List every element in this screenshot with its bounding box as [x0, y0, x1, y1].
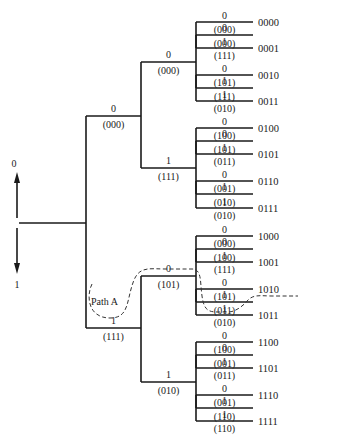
code-tree-diagram: 0 1 0(000)1(111)0(000)1(111)0(101)1(010)… — [0, 0, 348, 438]
leaf-output-label: (010) — [214, 210, 236, 222]
branch-output-label: (000) — [158, 65, 180, 77]
leaf-input-label: 1 — [222, 409, 227, 420]
leaf-codeword: 1001 — [258, 257, 279, 268]
leaf-codeword: 1010 — [258, 284, 279, 295]
leaf-input-label: 0 — [222, 63, 227, 74]
branch-output-label: (111) — [158, 171, 179, 183]
leaf-output-label: (011) — [214, 156, 235, 168]
leaf-codeword: 1111 — [258, 416, 278, 427]
leaf-codeword: 1101 — [258, 363, 279, 374]
leaf-codeword: 0110 — [258, 176, 279, 187]
branch-input-label: 0 — [111, 103, 116, 114]
leaf-output-label: (000) — [214, 238, 236, 250]
branch-input-label: 1 — [166, 369, 171, 380]
leaf-input-label: 1 — [222, 142, 227, 153]
path-a-label: Path A — [91, 296, 119, 307]
up-direction-label: 0 — [12, 158, 17, 169]
leaf-codeword: 1100 — [258, 337, 279, 348]
leaf-input-label: 1 — [222, 250, 227, 261]
leaf-output-label: (101) — [214, 77, 236, 89]
leaf-output-label: (001) — [214, 183, 236, 195]
leaf-codeword: 1000 — [258, 231, 279, 242]
tree-labels: 0(000)1(111)0(000)1(111)0(101)1(010)0(00… — [103, 10, 279, 435]
leaf-output-label: (100) — [214, 344, 236, 356]
branch-output-label: (010) — [158, 385, 180, 397]
leaf-output-label: (010) — [214, 317, 236, 329]
branch-output-label: (101) — [158, 279, 180, 291]
leaf-codeword: 0100 — [258, 123, 279, 134]
branch-input-label: 1 — [166, 155, 171, 166]
leaf-input-label: 0 — [222, 330, 227, 341]
leaf-output-label: (111) — [214, 50, 235, 62]
leaf-input-label: 1 — [222, 89, 227, 100]
leaf-output-label: (111) — [214, 264, 235, 276]
leaf-input-label: 0 — [222, 224, 227, 235]
leaf-output-label: (011) — [214, 370, 235, 382]
branch-input-label: 1 — [111, 315, 116, 326]
leaf-codeword: 0001 — [258, 43, 279, 54]
leaf-input-label: 0 — [222, 277, 227, 288]
branch-input-label: 0 — [166, 49, 171, 60]
branch-output-label: (000) — [103, 119, 125, 131]
up-arrow-icon — [14, 172, 20, 183]
leaf-input-label: 0 — [222, 169, 227, 180]
leaf-codeword: 0111 — [258, 203, 278, 214]
leaf-output-label: (001) — [214, 397, 236, 409]
leaf-input-label: 0 — [222, 383, 227, 394]
leaf-codeword: 0000 — [258, 17, 279, 28]
down-arrow-icon — [14, 263, 20, 274]
leaf-codeword: 1110 — [258, 390, 278, 401]
leaf-output-label: (100) — [214, 130, 236, 142]
direction-indicator: 0 1 — [12, 158, 21, 290]
leaf-input-label: 1 — [222, 356, 227, 367]
leaf-input-label: 0 — [222, 10, 227, 21]
leaf-codeword: 0101 — [258, 149, 279, 160]
leaf-codeword: 0011 — [258, 96, 279, 107]
leaf-output-label: (101) — [214, 291, 236, 303]
leaf-codeword: 0010 — [258, 70, 279, 81]
leaf-input-label: 1 — [222, 36, 227, 47]
leaf-output-label: (000) — [214, 24, 236, 36]
leaf-codeword: 1011 — [258, 310, 279, 321]
down-direction-label: 1 — [15, 279, 20, 290]
leaf-output-label: (110) — [214, 423, 235, 435]
leaf-input-label: 1 — [222, 196, 227, 207]
leaf-input-label: 0 — [222, 116, 227, 127]
leaf-output-label: (010) — [214, 103, 236, 115]
branch-output-label: (111) — [103, 331, 124, 343]
